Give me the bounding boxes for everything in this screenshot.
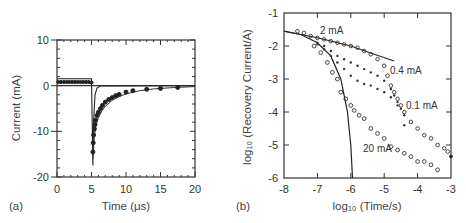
panel-b-annotation-20ma: 20 mA — [363, 143, 392, 154]
panel-b-annotation-01ma: 0.1 mA — [406, 100, 438, 111]
panel-a-axes-frame — [57, 40, 195, 177]
panel-b: 2 mA 0.4 mA 0.1 mA 20 mA -1 -2 -3 -4 -5 … — [236, 7, 456, 212]
panel-b-ytick-neg2: -2 — [268, 40, 278, 52]
panel-b-label: (b) — [236, 200, 250, 212]
panel-a: 10 0 -10 -20 0 5 10 15 20 Time (μs) Curr… — [9, 34, 201, 212]
panel-b-xtick-neg8: -8 — [279, 183, 289, 195]
panel-a-markers — [57, 80, 180, 153]
panel-b-end-marker — [449, 155, 453, 159]
panel-a-xtick-5: 5 — [88, 183, 94, 195]
panel-b-xtick-neg7: -7 — [313, 183, 323, 195]
panel-a-xtick-0: 0 — [54, 183, 60, 195]
panel-a-xtick-15: 15 — [154, 183, 166, 195]
panel-a-xlabel: Time (μs) — [102, 200, 151, 212]
panel-b-2ma-markers — [296, 29, 450, 153]
panel-b-xtick-neg3: -3 — [446, 183, 456, 195]
figure: 10 0 -10 -20 0 5 10 15 20 Time (μs) Curr… — [0, 0, 466, 223]
panel-a-xtick-20: 20 — [189, 183, 201, 195]
panel-b-xtick-neg4: -4 — [413, 183, 423, 195]
panel-b-xtick-neg6: -6 — [346, 183, 356, 195]
panel-a-ytick-10: 10 — [37, 34, 49, 46]
panel-b-annotation-04ma: 0.4 mA — [390, 65, 422, 76]
panel-b-ytick-neg5: -5 — [268, 139, 278, 151]
panel-b-ytick-neg6: -6 — [268, 172, 278, 184]
panel-b-annotation-2ma: 2 mA — [320, 25, 344, 36]
panel-a-label: (a) — [9, 200, 23, 212]
panel-b-xtick-neg5: -5 — [379, 183, 389, 195]
panel-b-ytick-neg3: -3 — [268, 73, 278, 85]
panel-a-ytick-neg10: -10 — [33, 125, 49, 137]
panel-a-ytick-neg20: -20 — [33, 171, 49, 183]
panel-b-ylabel: log₁₀ (Recovery Current/A) — [241, 29, 253, 165]
panel-b-ytick-neg4: -4 — [268, 106, 278, 118]
panel-b-04ma-markers — [316, 42, 405, 117]
panel-b-steep-fit — [284, 31, 353, 178]
panel-a-xtick-10: 10 — [120, 183, 132, 195]
panel-a-y-ticks — [51, 40, 195, 177]
panel-a-ylabel: Current (mA) — [10, 75, 22, 142]
panel-b-ytick-neg1: -1 — [268, 7, 278, 19]
panel-a-x-ticks — [57, 40, 195, 177]
panel-b-xlabel: log₁₀ (Time/s) — [333, 200, 402, 212]
panel-a-ytick-0: 0 — [43, 80, 49, 92]
